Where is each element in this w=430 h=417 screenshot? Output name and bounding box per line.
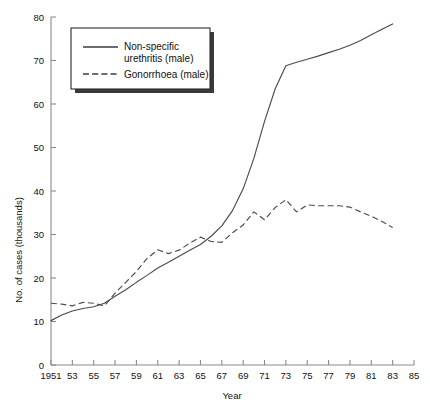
y-axis-ticks — [51, 17, 56, 365]
y-axis-title: No. of cases (thousands) — [13, 197, 24, 303]
y-tick-label: 50 — [33, 142, 44, 153]
y-tick-label: 0 — [39, 360, 44, 371]
y-tick-label: 20 — [33, 273, 44, 284]
x-tick-label: 79 — [345, 370, 356, 381]
y-tick-label: 10 — [33, 316, 44, 327]
x-tick-label: 81 — [366, 370, 377, 381]
line-chart: 01020304050607080 No. of cases (thousand… — [0, 0, 430, 417]
series-line-gonorrhoea — [51, 200, 393, 306]
y-axis: 01020304050607080 No. of cases (thousand… — [13, 12, 56, 371]
x-tick-label: 71 — [259, 370, 270, 381]
legend-label-non-specific-urethritis-line1: Non-specific — [124, 41, 179, 52]
y-tick-label: 60 — [33, 99, 44, 110]
x-axis: 19515355575961636567697173757779818385 Y… — [40, 360, 419, 401]
x-tick-label: 61 — [152, 370, 163, 381]
x-tick-label: 53 — [67, 370, 78, 381]
x-tick-label: 69 — [238, 370, 249, 381]
x-tick-label: 1951 — [40, 370, 61, 381]
legend: Non-specific urethritis (male) Gonorrhoe… — [71, 28, 214, 93]
x-axis-title: Year — [222, 390, 241, 401]
x-tick-label: 73 — [281, 370, 292, 381]
legend-label-non-specific-urethritis-line2: urethritis (male) — [124, 53, 193, 64]
x-tick-label: 67 — [217, 370, 228, 381]
x-tick-label: 83 — [387, 370, 398, 381]
x-tick-label: 59 — [131, 370, 142, 381]
x-tick-label: 55 — [88, 370, 99, 381]
y-tick-label: 80 — [33, 12, 44, 23]
legend-label-gonorrhoea: Gonorrhoea (male) — [124, 69, 208, 80]
y-tick-label: 40 — [33, 186, 44, 197]
x-tick-label: 75 — [302, 370, 313, 381]
y-tick-label: 70 — [33, 55, 44, 66]
x-tick-label: 65 — [195, 370, 206, 381]
x-tick-label: 57 — [110, 370, 121, 381]
x-axis-tick-labels: 19515355575961636567697173757779818385 — [40, 370, 419, 381]
x-tick-label: 63 — [174, 370, 185, 381]
y-axis-tick-labels: 01020304050607080 — [33, 12, 44, 371]
x-tick-label: 77 — [323, 370, 334, 381]
y-tick-label: 30 — [33, 229, 44, 240]
chart-figure: 01020304050607080 No. of cases (thousand… — [0, 0, 430, 417]
x-axis-ticks — [51, 360, 414, 365]
x-tick-label: 85 — [409, 370, 420, 381]
